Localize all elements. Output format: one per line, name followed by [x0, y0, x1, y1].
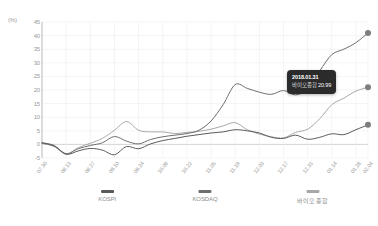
x-axis-tick: 11.05	[204, 161, 217, 175]
legend-item-2[interactable]: KOSDAQ	[192, 190, 217, 202]
tooltip-series-row: 바이오종합 20.99	[292, 81, 331, 89]
y-axis-tick: 0	[20, 141, 40, 147]
x-axis-tick: 08.27	[84, 160, 97, 174]
x-axis-tick: 12.03	[253, 160, 266, 174]
index-comparison-line-chart: (%) 454035302520151050-5 07.3008.1308.27…	[0, 0, 378, 226]
legend-color-swatch	[198, 190, 211, 193]
x-axis-tick: 02.04	[361, 160, 374, 174]
x-axis-tick-labels: 07.3008.1308.2709.1009.2410.0810.2211.05…	[42, 158, 368, 192]
legend-item-1[interactable]: KOSPI	[98, 190, 116, 202]
tooltip-date: 2018.01.31	[292, 73, 331, 81]
y-axis-tick: -5	[20, 155, 40, 161]
tooltip-series-label: 바이오종합	[292, 82, 317, 88]
legend-label: KOSPI	[98, 196, 116, 202]
x-axis-tick: 09.24	[132, 160, 145, 174]
x-axis-tick: 12.31	[301, 160, 314, 174]
x-axis-tick: 12.17	[277, 160, 290, 174]
y-axis-tick: 5	[20, 128, 40, 134]
y-axis-tick: 15	[20, 101, 40, 107]
x-axis-tick: 08.13	[59, 160, 72, 174]
chart-legend: KOSPIKOSDAQ바이오 종합	[42, 190, 368, 222]
x-axis-tick: 11.19	[228, 161, 241, 175]
y-axis-tick: 40	[20, 33, 40, 39]
y-axis-tick: 20	[20, 87, 40, 93]
y-axis-tick: 45	[20, 19, 40, 25]
tooltip-value: 20.99	[318, 82, 331, 88]
x-axis-tick: 10.22	[180, 160, 193, 174]
y-axis-tick: 30	[20, 60, 40, 66]
data-point-tooltip: 2018.01.31 바이오종합 20.99	[287, 70, 336, 94]
x-axis-tick: 10.08	[156, 160, 169, 174]
legend-label: 바이오 종합	[297, 196, 328, 205]
x-axis-tick: 09.10	[108, 160, 121, 174]
legend-color-swatch	[306, 190, 319, 193]
y-axis-tick: 10	[20, 114, 40, 120]
y-axis-tick: 35	[20, 46, 40, 52]
y-axis-tick: 25	[20, 73, 40, 79]
x-axis-tick: 01.14	[325, 160, 338, 174]
legend-label: KOSDAQ	[192, 196, 217, 202]
x-axis-tick: 01.28	[349, 160, 362, 174]
y-axis-tick-labels: 454035302520151050-5	[16, 0, 40, 226]
legend-item-3[interactable]: 바이오 종합	[297, 190, 328, 205]
legend-color-swatch	[101, 190, 114, 193]
